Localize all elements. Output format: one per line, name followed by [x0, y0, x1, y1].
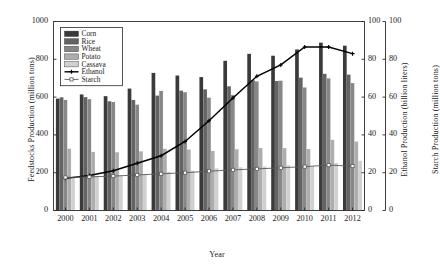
bar-potato-2006 [211, 151, 215, 211]
bar-potato-2000 [67, 149, 71, 211]
legend-swatch-rice [65, 39, 79, 44]
bar-group [56, 97, 75, 210]
bar-rice-2004 [155, 96, 159, 211]
bar-potato-2004 [163, 149, 167, 211]
marker-starch-2009 [279, 166, 282, 169]
bar-wheat-2000 [64, 100, 68, 211]
bar-wheat-2004 [159, 91, 163, 211]
marker-starch-2003 [136, 173, 139, 176]
bar-corn-2012 [343, 46, 347, 211]
bar-rice-2002 [108, 101, 112, 210]
bar-group [319, 43, 338, 211]
bar-potato-2002 [115, 152, 119, 210]
bar-group [223, 61, 242, 211]
bar-corn-2010 [295, 49, 299, 210]
bar-rice-2011 [323, 74, 327, 211]
bar-group [128, 89, 147, 211]
bar-potato-2003 [139, 151, 143, 210]
bar-potato-2005 [187, 150, 191, 211]
bar-rice-2005 [179, 91, 183, 211]
bar-cassava-2009 [287, 165, 291, 210]
bar-cassava-2003 [143, 174, 147, 210]
marker-starch-2002 [112, 175, 115, 178]
bar-rice-2009 [275, 81, 279, 210]
bar-potato-2007 [235, 149, 239, 210]
bar-wheat-2012 [351, 83, 355, 210]
bar-corn-2011 [319, 43, 323, 211]
bar-corn-2004 [152, 73, 156, 211]
bar-corn-2000 [56, 99, 60, 211]
bar-wheat-2005 [183, 92, 187, 210]
marker-starch-2007 [231, 168, 234, 171]
bar-cassava-2008 [263, 166, 267, 210]
bar-corn-2009 [271, 56, 275, 211]
marker-starch-2012 [351, 164, 354, 167]
marker-starch-2008 [255, 167, 258, 170]
bar-corn-2003 [128, 89, 132, 211]
bar-corn-2008 [247, 54, 251, 211]
bar-potato-2012 [354, 142, 358, 211]
bar-rice-2007 [227, 86, 231, 210]
legend-marker-starch [70, 78, 73, 81]
marker-starch-2001 [88, 175, 91, 178]
bar-potato-2009 [283, 148, 287, 210]
marker-starch-2000 [64, 176, 67, 179]
bar-wheat-2008 [255, 81, 259, 210]
bar-potato-2001 [91, 152, 95, 211]
bar-wheat-2011 [327, 78, 331, 210]
bar-corn-2001 [80, 94, 84, 210]
marker-starch-2011 [327, 164, 330, 167]
bar-wheat-2002 [111, 102, 115, 210]
bar-cassava-2000 [71, 177, 75, 210]
bar-cassava-2012 [358, 161, 362, 211]
legend-swatch-potato [65, 54, 79, 59]
marker-starch-2006 [207, 170, 210, 173]
bar-group [104, 96, 123, 210]
bar-cassava-2005 [191, 171, 195, 211]
bar-rice-2001 [84, 97, 88, 210]
bar-rice-2006 [203, 89, 207, 210]
bar-wheat-2010 [303, 87, 307, 210]
bar-group [343, 46, 362, 211]
marker-starch-2010 [303, 165, 306, 168]
bar-wheat-2001 [87, 99, 91, 210]
bar-rice-2008 [251, 80, 255, 210]
bar-cassava-2011 [334, 163, 338, 211]
bar-wheat-2007 [231, 95, 235, 210]
bar-group [295, 49, 314, 210]
legend-swatch-wheat [65, 46, 79, 51]
bar-corn-2006 [199, 77, 203, 210]
bar-corn-2002 [104, 96, 108, 210]
bar-wheat-2006 [207, 98, 211, 211]
marker-ethanol-2011 [327, 45, 331, 49]
legend-swatch-cassava [65, 62, 79, 67]
bar-potato-2008 [259, 148, 263, 211]
bar-potato-2011 [331, 140, 335, 211]
bar-rice-2000 [60, 97, 64, 210]
bar-corn-2007 [223, 61, 227, 211]
bar-cassava-2004 [167, 172, 171, 211]
bar-corn-2005 [176, 76, 180, 211]
marker-ethanol-2012 [351, 52, 355, 56]
bar-group [80, 94, 99, 210]
bar-rice-2012 [347, 75, 351, 211]
bar-cassava-2010 [310, 166, 314, 210]
bar-group [152, 73, 171, 211]
marker-starch-2004 [160, 172, 163, 175]
legend-swatch-corn [65, 31, 79, 36]
bar-cassava-2006 [215, 168, 219, 210]
bar-group [199, 77, 218, 210]
bar-cassava-2007 [239, 167, 243, 210]
marker-starch-2005 [183, 171, 186, 174]
legend-label-starch: Starch [82, 75, 101, 84]
bar-wheat-2009 [279, 81, 283, 211]
bar-potato-2010 [307, 149, 311, 210]
bar-cassava-2002 [119, 176, 123, 211]
bar-rice-2003 [131, 100, 135, 211]
bar-wheat-2003 [135, 105, 139, 211]
chart-legend: CornRiceWheatPotatoCassavaEthanolStarch [61, 28, 123, 86]
bar-rice-2010 [299, 78, 303, 211]
bar-group [271, 56, 290, 211]
